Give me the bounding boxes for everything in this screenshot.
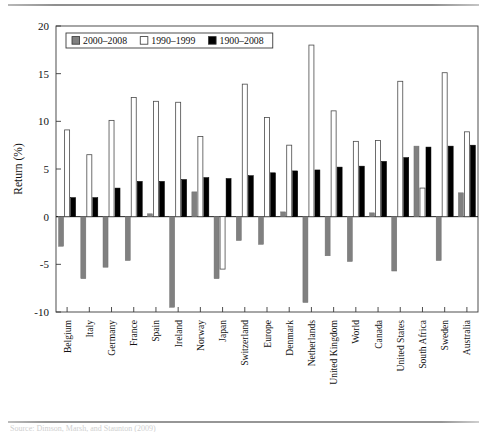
bar-20002008-denmark [281,212,286,217]
x-axis-category-label: World [350,320,361,344]
bar-19002008-switzerland [248,176,253,217]
figure-source-caption: Source: Dimson, Marsh, and Staunton (200… [10,424,480,432]
x-axis-category-label: United Kingdom [328,319,339,384]
bar-19901999-denmark [287,145,292,217]
x-axis-category-label: United States [395,320,406,372]
legend-label-0: 2000–2008 [83,35,127,46]
x-axis-category-label: Germany [106,320,117,356]
x-axis-category-label: South Africa [417,319,428,369]
bar-19901999-germany [109,120,114,216]
bar-20002008-world [347,217,352,262]
bar-19002008-denmark [293,171,298,217]
bar-20002008-japan [214,217,219,279]
bar-20002008-switzerland [236,217,241,241]
bar-19901999-south-africa [420,188,425,217]
legend-swatch-2 [209,37,217,45]
bar-19901999-australia [464,132,469,217]
x-axis-category-label: Norway [195,320,206,351]
x-axis-category-label: Netherlands [306,320,317,367]
bar-19002008-world [359,166,364,217]
x-axis-category-label: Europe [262,320,273,348]
x-axis-category-label: Canada [373,319,384,349]
bar-chart-svg: -10-505101520Return (%)BelgiumItalyGerma… [0,0,487,420]
bar-19901999-italy [87,155,92,217]
x-axis-category-label: Spain [150,320,161,342]
bar-19901999-world [353,141,358,216]
y-axis-tick-label: 0 [44,211,50,223]
bar-20002008-ireland [170,217,175,308]
bar-19901999-france [131,98,136,217]
y-axis-tick-label: 10 [38,115,50,127]
x-axis-category-label: Australia [461,319,472,355]
legend-swatch-0 [72,37,80,45]
bar-20002008-europe [259,217,264,245]
bar-19901999-canada [376,140,381,216]
bar-19002008-sweden [448,146,453,217]
bar-20002008-united-kingdom [325,217,330,256]
bar-19901999-ireland [176,102,181,216]
bar-19002008-spain [159,181,164,216]
x-axis-category-label: Italy [84,320,95,338]
bar-20002008-south-africa [414,146,419,217]
bar-19901999-japan [220,217,225,269]
bottom-rule-divider [8,421,479,423]
x-axis-category-label: Sweden [439,320,450,351]
bar-19002008-south-africa [426,147,431,217]
legend-label-2: 1900–2008 [220,35,264,46]
bar-20002008-united-states [392,217,397,271]
bar-19901999-norway [198,137,203,217]
bar-19901999-united-states [398,81,403,216]
bar-20002008-canada [370,213,375,217]
bar-19901999-spain [153,101,158,216]
bar-19901999-netherlands [309,45,314,217]
bar-19002008-australia [470,145,475,217]
bar-19002008-netherlands [315,170,320,217]
bar-20002008-italy [81,217,86,279]
x-axis-category-label: Japan [217,320,228,342]
bar-19901999-united-kingdom [331,111,336,217]
bar-19901999-belgium [65,130,70,217]
bar-20002008-australia [458,193,463,217]
x-axis-category-label: Belgium [62,319,73,353]
y-axis-tick-label: -5 [40,258,50,270]
bar-19002008-ireland [182,179,187,216]
bar-20002008-spain [147,214,152,217]
bar-20002008-france [125,217,130,261]
x-axis-category-label: France [128,320,139,346]
bar-19002008-belgium [71,198,76,217]
x-axis-category-label: Ireland [173,320,184,347]
y-axis-title: Return (%) [12,143,25,195]
bar-19002008-canada [382,161,387,216]
legend-label-1: 1990–1999 [151,35,195,46]
x-axis-category-label: Denmark [284,320,295,356]
bar-20002008-germany [103,217,108,268]
bar-19901999-switzerland [242,84,247,217]
y-axis-tick-label: 5 [44,163,50,175]
bar-20002008-belgium [59,217,64,247]
bar-19002008-united-states [404,158,409,217]
bar-19002008-europe [271,173,276,217]
chart-container: -10-505101520Return (%)BelgiumItalyGerma… [0,0,487,432]
bar-19002008-germany [115,188,120,217]
bar-19002008-norway [204,178,209,217]
x-axis-category-label: Switzerland [239,320,250,366]
bar-19901999-europe [265,118,270,217]
y-axis-tick-label: 15 [38,68,50,80]
bar-20002008-sweden [436,217,441,261]
bar-20002008-netherlands [303,217,308,303]
legend-swatch-1 [140,37,148,45]
y-axis-tick-label: 20 [38,20,50,32]
bar-19002008-italy [93,198,98,217]
figure-panel: -10-505101520Return (%)BelgiumItalyGerma… [0,0,487,432]
bar-19002008-france [137,181,142,216]
bar-20002008-norway [192,192,197,217]
bar-19901999-sweden [442,73,447,217]
bar-19002008-united-kingdom [337,167,342,217]
y-axis-tick-label: -10 [34,306,49,318]
bar-19002008-japan [226,179,231,217]
